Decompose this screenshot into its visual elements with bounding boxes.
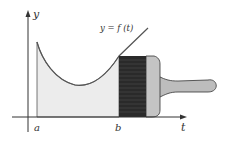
y-axis-arrow-icon (26, 10, 31, 17)
area-paintbrush-diagram: y t y = f (t) a b (0, 0, 234, 141)
y-axis-label: y (32, 8, 40, 21)
brush-ferrule (146, 56, 160, 117)
curve-label: y = f (t) (99, 23, 133, 33)
point-b-label: b (115, 122, 121, 133)
brush-handle (158, 76, 216, 98)
area-under-curve (37, 42, 119, 117)
x-axis-label: t (181, 121, 186, 134)
x-axis-arrow-icon (180, 115, 187, 120)
point-a-label: a (34, 122, 40, 133)
